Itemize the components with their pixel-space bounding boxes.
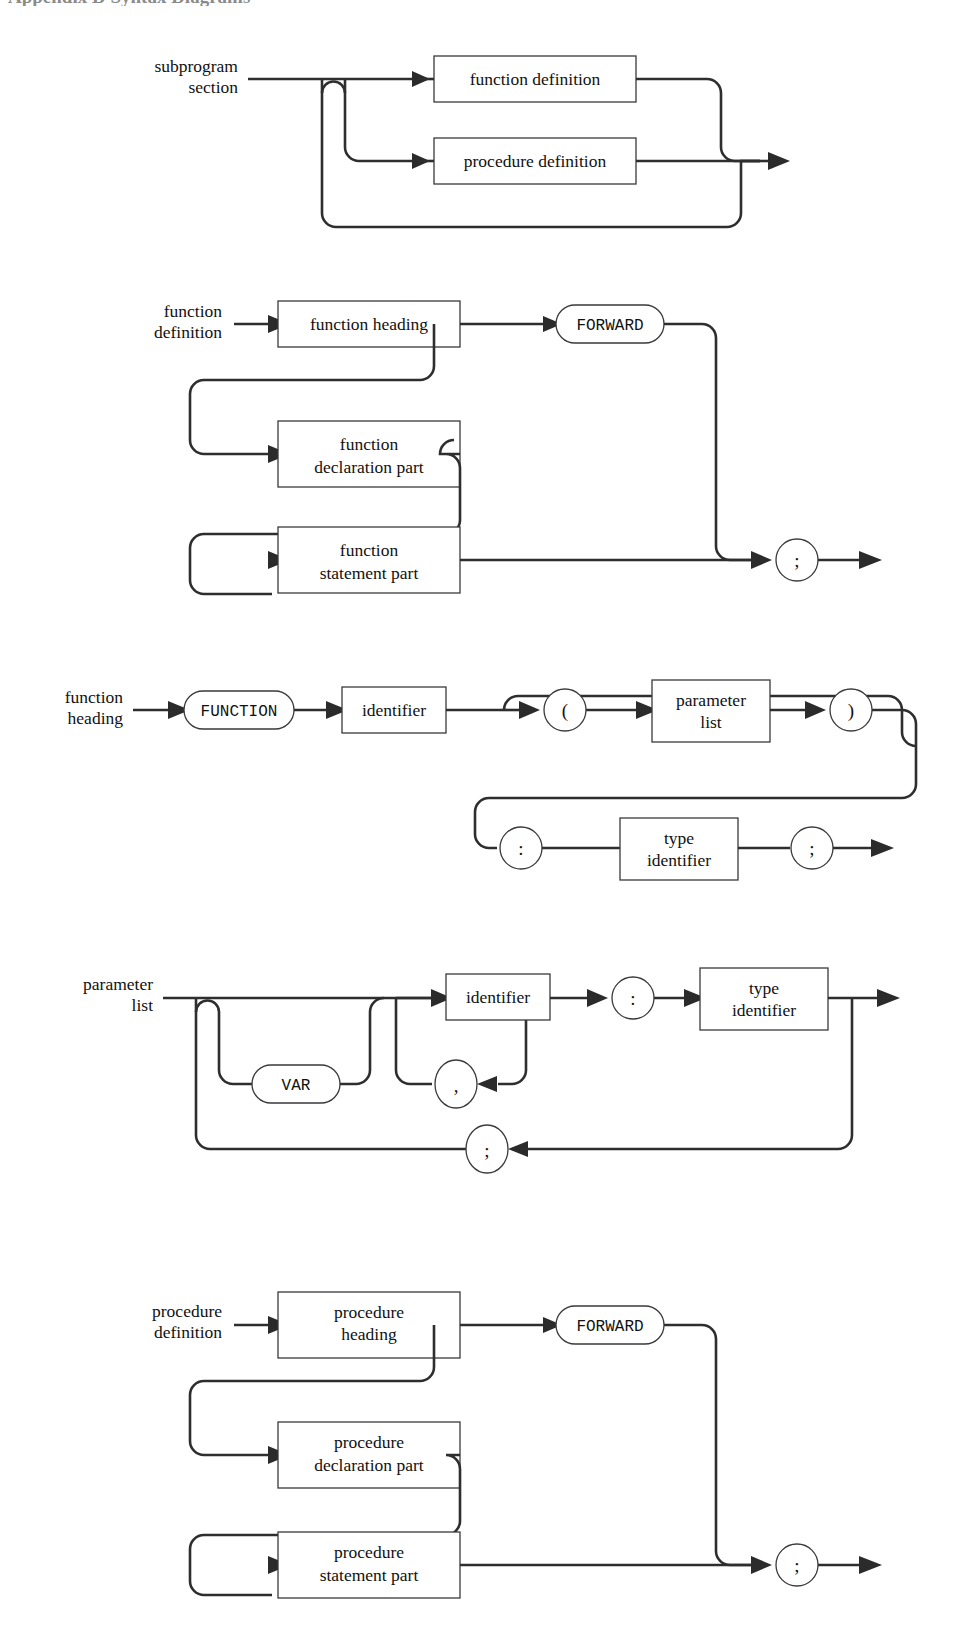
node-procedure-statement-part-line2: statement part	[320, 1565, 419, 1585]
exit-arrow-1	[768, 152, 790, 170]
arrow-into-semicolon-5	[751, 1556, 772, 1574]
node-function-statement-part-line2: statement part	[320, 563, 419, 583]
var-branch-in	[219, 1012, 255, 1084]
terminal-colon-3-label: :	[518, 838, 523, 859]
node-procedure-heading-line1: procedure	[334, 1302, 404, 1322]
arrow-into-colon-4	[587, 989, 608, 1007]
exit-arrow-5	[859, 1556, 882, 1574]
terminal-semicolon-2-label: ;	[794, 550, 799, 571]
node-function-declaration-part-line2: declaration part	[314, 457, 423, 477]
label-subprogram-section-line1: subprogram	[154, 56, 238, 76]
label-procedure-definition-line1: procedure	[152, 1301, 222, 1321]
node-procedure-definition-label: procedure definition	[464, 151, 607, 171]
arrow-semicolon-loop-left	[508, 1141, 528, 1157]
label-function-heading-line1: function	[65, 687, 124, 707]
arrow-comma-loop-left	[477, 1076, 497, 1092]
var-branch-out	[340, 998, 384, 1084]
node-procedure-heading-line2: heading	[341, 1324, 397, 1344]
syntax-diagram-page: Appendix D Syntax Diagrams subprogram se…	[0, 0, 972, 1651]
terminal-semicolon-4-label: ;	[484, 1140, 489, 1161]
terminal-kw-function-label: FUNCTION	[201, 703, 278, 721]
node-identifier-4-label: identifier	[466, 987, 530, 1007]
diagram-parameter-list: parameter list VAR , identifier :	[0, 960, 972, 1190]
terminal-semicolon-5-label: ;	[794, 1555, 799, 1576]
arrow-into-semicolon-2	[751, 551, 772, 569]
node-type-identifier-4-line2: identifier	[732, 1000, 796, 1020]
exit-arrow-4	[877, 989, 900, 1007]
branch-to-procedure-line	[345, 79, 420, 161]
var-split-arc	[196, 1001, 219, 1013]
terminal-colon-4-label: :	[630, 988, 635, 1009]
node-procedure-declaration-part-line1: procedure	[334, 1432, 404, 1452]
label-function-definition-line1: function	[164, 301, 223, 321]
node-parameter-list-3-line1: parameter	[676, 690, 746, 710]
arrow-into-close-paren	[805, 701, 826, 719]
comma-loop-left	[396, 998, 432, 1084]
label-function-heading-line2: heading	[68, 708, 124, 728]
merge-rail-top	[636, 79, 760, 161]
label-subprogram-section-line2: section	[188, 77, 238, 97]
label-parameter-list-line2: list	[132, 995, 154, 1015]
node-procedure-declaration-part-line2: declaration part	[314, 1455, 423, 1475]
node-function-definition-label: function definition	[470, 69, 601, 89]
exit-arrow-2	[859, 551, 882, 569]
terminal-forward-5-label: FORWARD	[576, 1318, 643, 1336]
diagram-subprogram-section: subprogram section function definition p…	[0, 0, 972, 250]
node-function-statement-part-line1: function	[340, 540, 399, 560]
diagram-function-heading: function heading FUNCTION identifier ( p…	[0, 660, 972, 910]
label-parameter-list-line1: parameter	[83, 974, 153, 994]
node-type-identifier-3-line1: type	[664, 828, 694, 848]
diagram-function-definition: function definition function heading FOR…	[0, 280, 972, 600]
label-function-definition-line2: definition	[154, 322, 222, 342]
terminal-open-paren-label: (	[562, 700, 568, 722]
forward-right-rail	[664, 324, 757, 560]
forward-right-rail-5	[664, 1325, 757, 1565]
node-parameter-list-3-line2: list	[700, 712, 722, 732]
branch-split-arc	[322, 82, 345, 93]
node-function-declaration-part-line1: function	[340, 434, 399, 454]
terminal-semicolon-3-label: ;	[809, 838, 814, 859]
node-procedure-statement-part-line1: procedure	[334, 1542, 404, 1562]
node-type-identifier-3-line2: identifier	[647, 850, 711, 870]
terminal-close-paren-label: )	[848, 700, 854, 722]
label-procedure-definition-line2: definition	[154, 1322, 222, 1342]
node-type-identifier-4-line1: type	[749, 978, 779, 998]
node-identifier-3-label: identifier	[362, 700, 426, 720]
terminal-forward-label: FORWARD	[576, 317, 643, 335]
exit-arrow-3	[871, 839, 894, 857]
diagram-procedure-definition: procedure definition procedure heading F…	[0, 1285, 972, 1615]
arrow-into-open-paren	[519, 701, 540, 719]
node-function-statement-part	[278, 527, 460, 593]
terminal-var-label: VAR	[282, 1077, 311, 1095]
node-function-declaration-part	[278, 421, 460, 487]
node-function-heading-label: function heading	[310, 314, 428, 334]
merge-rail-bottom	[727, 161, 741, 227]
comma-loop-right	[498, 1012, 526, 1084]
terminal-comma-label: ,	[454, 1075, 459, 1096]
